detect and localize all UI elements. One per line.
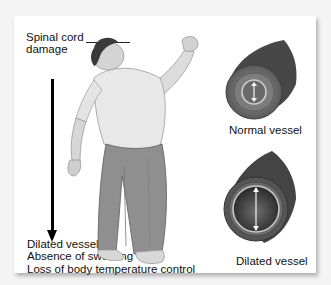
down-arrow-icon	[51, 79, 54, 236]
normal-vessel-caption: Normal vessel	[229, 124, 302, 136]
dilated-vessel-icon	[220, 149, 304, 249]
normal-vessel-icon	[220, 36, 300, 122]
dilated-vessel-caption: Dilated vessel	[236, 255, 308, 267]
diagram-panel: Spinal cord damage Dilated vessels Absen…	[14, 16, 316, 273]
collapsing-person-icon	[64, 26, 214, 271]
